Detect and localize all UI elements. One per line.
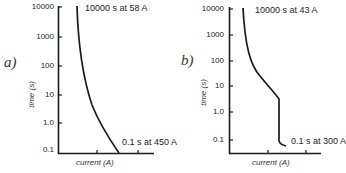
y-tick-1000: 1000 — [184, 30, 224, 39]
annotation-top-b: 10000 s at 43 A — [255, 5, 318, 15]
panel-label-a: a) — [4, 54, 17, 71]
curve-a — [77, 6, 119, 153]
y-tick-0-1: 0.1 — [184, 135, 224, 144]
annotation-top-a: 10000 s at 58 A — [85, 3, 148, 13]
y-tick-100: 100 — [14, 61, 54, 70]
y-tick-10000: 10000 — [14, 2, 54, 11]
x-axis-title-b: current (A) — [252, 158, 290, 167]
annotation-bottom-b: 0.1 s at 300 A — [291, 136, 346, 146]
y-axis-title-b: time (s) — [199, 79, 208, 106]
y-axis-title-a: time (s) — [27, 81, 36, 108]
y-tick-0-1: 0.1 — [14, 145, 54, 154]
curve-b — [243, 8, 286, 146]
y-tick-1: 1.0 — [14, 118, 54, 127]
y-tick-10000: 10000 — [184, 4, 224, 13]
chart-panel-b: 10000 1000 100 10 1.0 0.1 b) time (s) cu… — [168, 0, 336, 173]
y-tick-1000: 1000 — [14, 32, 54, 41]
x-axis-title-a: current (A) — [76, 158, 114, 167]
chart-panel-a: 10000 1000 100 10 1.0 0.1 a) time (s) cu… — [0, 0, 168, 173]
y-tick-1: 1.0 — [184, 107, 224, 116]
panel-label-b: b) — [181, 52, 194, 69]
